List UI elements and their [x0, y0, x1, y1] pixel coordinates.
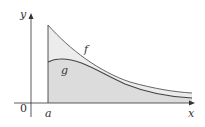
x-axis-label: x: [188, 107, 195, 120]
y-axis-label: y: [19, 8, 27, 21]
curve-g-label: g: [61, 64, 68, 77]
area-between-curves-diagram: y x 0 a f g: [0, 0, 205, 127]
origin-label: 0: [20, 102, 27, 115]
y-axis-arrow-icon: [29, 13, 34, 19]
a-label: a: [45, 107, 52, 120]
curve-f-label: f: [83, 43, 90, 56]
